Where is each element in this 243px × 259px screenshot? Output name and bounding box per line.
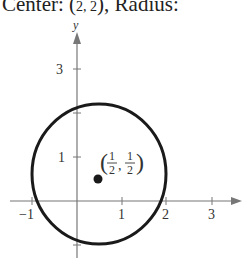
fraction-num: 1 (127, 149, 133, 163)
y-tick-label: 1 (58, 150, 65, 165)
x-tick-label: 3 (208, 207, 215, 222)
y-axis-arrow-icon (73, 32, 81, 44)
x-axis-arrow-icon (231, 197, 242, 205)
x-tick-label: 1 (118, 207, 125, 222)
fraction-num: 1 (109, 149, 115, 163)
comma: , (118, 158, 122, 173)
paren-open: ( (100, 149, 108, 175)
center-point-label: ( 1 2 , 1 2 ) (100, 149, 144, 177)
circle-graph: y −1 1 2 3 3 1 ( 1 2 , 1 2 ) (0, 0, 243, 259)
center-point (94, 175, 103, 184)
x-tick-label: 2 (162, 207, 169, 222)
fraction-den: 2 (109, 163, 115, 177)
y-tick-label: 3 (56, 62, 63, 77)
fraction-den: 2 (127, 163, 133, 177)
circle-curve (32, 104, 166, 244)
x-tick-label: −1 (19, 207, 34, 222)
y-axis-label: y (72, 18, 79, 32)
paren-close: ) (136, 149, 144, 175)
